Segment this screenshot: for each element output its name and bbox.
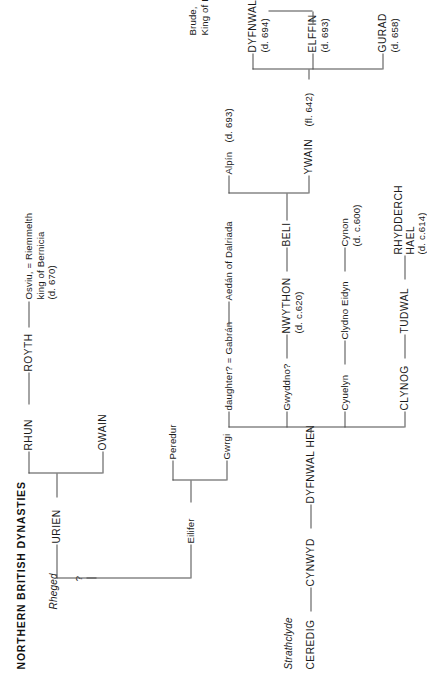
node-elffin: ELFFIN (d. 693) [306, 14, 329, 52]
node-dates: (d. 694) [258, 0, 270, 52]
node-label: TUDWAL [398, 287, 410, 333]
node-label: OWAIN [96, 413, 108, 450]
node-label: Cynon [338, 204, 350, 246]
node-label: Cyuelyn [338, 374, 350, 410]
connector [56, 544, 57, 578]
connector [228, 301, 229, 325]
connector [190, 544, 191, 578]
node-label: DYFNWAL [246, 0, 258, 52]
connector [312, 11, 313, 23]
node-gwyddno: Gwyddno? [280, 363, 292, 410]
node-clydno-eidyn: Clydno Eidyn [338, 281, 350, 339]
node-alpin-dates: (d. 693) [222, 108, 234, 142]
node-dates: (d. 693) [222, 108, 234, 142]
node-rhun: RHUN [22, 419, 34, 450]
node-label: RHUN [22, 419, 34, 450]
node-nwython: NWYTHON (d. c.620) [280, 277, 303, 333]
node-label: NWYTHON [280, 277, 292, 333]
node-label-line2: King of Picts [198, 0, 210, 35]
node-cynon: Cynon (d. c.600) [338, 204, 361, 246]
node-dates: (d. 658) [388, 13, 400, 52]
connector [228, 175, 229, 193]
node-peredur: Peredur [166, 424, 178, 459]
node-label: Aedán of Dalriada [222, 221, 234, 300]
connector [286, 334, 287, 358]
connector [344, 340, 345, 364]
node-label: Alpín [222, 151, 234, 174]
node-osviu: Osviu, = Riemmelth king of Bernicia (d. … [22, 212, 57, 299]
node-label-line1: Osviu, = Riemmelth [22, 212, 34, 299]
node-ceredig: CEREDIG [304, 619, 316, 669]
node-label: GURAD [376, 13, 388, 52]
node-royth: ROYTH [22, 333, 34, 371]
connector [172, 460, 173, 480]
node-label: daughter? = Gabrán [222, 321, 234, 410]
node-daughter-gabran: daughter? = Gabrán [222, 321, 234, 410]
connector [252, 53, 253, 69]
page-title: NORTHERN BRITISH DYNASTIES [14, 481, 26, 669]
node-label: BELI [280, 222, 292, 246]
connector [28, 301, 29, 327]
connector [56, 577, 190, 578]
connector [286, 411, 287, 427]
node-label: CYNWYD [304, 538, 316, 586]
node-dates: (d. c.600) [350, 204, 362, 246]
connector [404, 334, 405, 358]
node-tudwal: TUDWAL [398, 287, 410, 333]
node-gwrgi: Gwrgi [220, 433, 232, 459]
node-owain: OWAIN [96, 413, 108, 450]
node-label: Gwrgi [220, 433, 232, 459]
node-rhydderch-hael: RHYDDERCH HAEL (d. c.614) [392, 184, 427, 254]
connector [268, 10, 312, 11]
node-dates: (d. 693) [318, 14, 330, 52]
connector [228, 426, 404, 427]
connector [190, 480, 191, 502]
connector [28, 451, 29, 473]
connector [28, 372, 29, 404]
connector [308, 69, 309, 79]
connector [28, 472, 102, 473]
node-label-line2: HAEL [404, 184, 416, 254]
node-alpin: Alpín [222, 151, 234, 174]
node-cyuelyn: Cyuelyn [338, 374, 350, 410]
connector [286, 193, 287, 220]
node-eilifer: Eilifer [184, 518, 196, 543]
node-dates: (d. c.620) [292, 277, 304, 333]
connector [404, 255, 405, 279]
node-beli: BELI [280, 222, 292, 246]
connector [344, 411, 345, 427]
connector [56, 473, 57, 497]
node-label: YWAIN [302, 138, 314, 174]
connector [286, 247, 287, 271]
node-dates: (d. c.614) [415, 184, 427, 254]
node-label: Gwyddno? [280, 363, 292, 410]
node-dates: (fl. 642) [302, 92, 314, 126]
node-brude-king-of-picts: Brude, King of Picts [186, 0, 209, 35]
node-label: URIEN [50, 509, 62, 543]
connector [102, 451, 103, 473]
region-label-strathclyde: Strathclyde [282, 617, 293, 669]
node-label-line1: Brude, [186, 0, 198, 35]
connector [310, 587, 311, 611]
node-ywain-dates: (fl. 642) [302, 92, 314, 126]
node-dyfnwal: DYFNWAL (d. 694) [246, 0, 269, 52]
node-clynog: CLYNOG [398, 365, 410, 410]
node-label-line2: king of Bernicia [34, 212, 46, 299]
node-label: CEREDIG [304, 619, 316, 669]
node-aedan-dalriada: Aedán of Dalriada [222, 221, 234, 300]
node-label-line1: RHYDDERCH [392, 184, 404, 254]
node-label: DYFNWAL HEN [304, 424, 316, 503]
connector [310, 504, 311, 528]
node-gurad: GURAD (d. 658) [376, 13, 399, 52]
connector [228, 192, 308, 193]
connector [252, 68, 382, 69]
node-label: CLYNOG [398, 365, 410, 410]
node-label: Eilifer [184, 518, 196, 543]
connector [404, 411, 405, 427]
node-cynwyd: CYNWYD [304, 538, 316, 586]
connector [382, 53, 383, 69]
connector [226, 460, 227, 480]
connector [312, 53, 313, 69]
connector [172, 479, 226, 480]
